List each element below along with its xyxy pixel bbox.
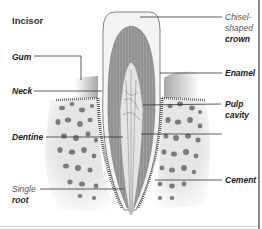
gum-left	[75, 76, 98, 98]
label-pulp: Pulp	[225, 99, 243, 109]
label-root: root	[12, 195, 29, 205]
diagram-title: Incisor	[12, 15, 43, 26]
label-single: Single	[12, 184, 36, 194]
label-gum: Gum	[12, 52, 31, 62]
label-chisel: Chisel-	[225, 12, 251, 22]
incisor-diagram: Incisor Gum Neck Dentine Single root Chi…	[0, 0, 262, 229]
tooth-illustration	[0, 0, 262, 229]
right-border	[258, 0, 260, 229]
label-crown: crown	[225, 34, 250, 44]
label-shaped: shaped	[225, 23, 253, 33]
label-cement: Cement	[225, 175, 256, 185]
label-cavity: cavity	[225, 110, 249, 120]
label-dentine: Dentine	[12, 132, 43, 142]
bottom-divider	[0, 226, 258, 227]
label-enamel: Enamel	[225, 68, 255, 78]
label-neck: Neck	[12, 86, 32, 96]
